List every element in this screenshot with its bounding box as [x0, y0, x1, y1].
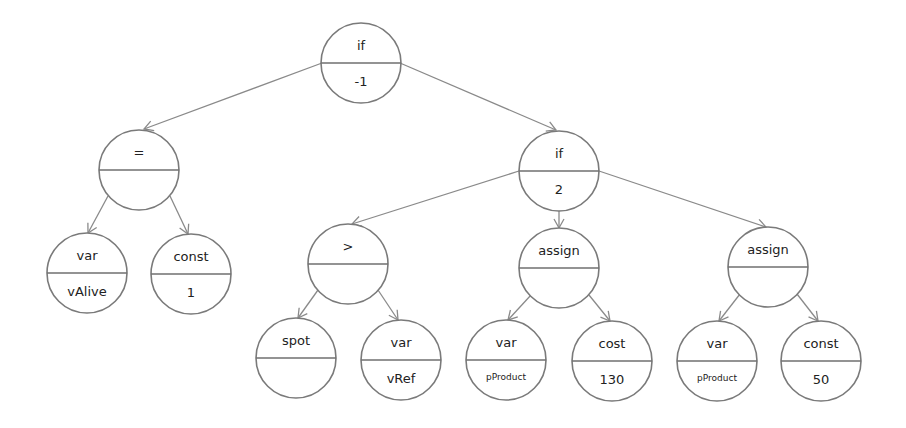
- tree-node-: =: [99, 130, 179, 210]
- edge-n5-n8: [298, 290, 318, 318]
- node-value: 2: [555, 182, 563, 197]
- node-operator: spot: [282, 333, 310, 348]
- node-operator: const: [173, 249, 208, 264]
- node-value: vAlive: [67, 284, 107, 299]
- edge-n1-n4: [170, 196, 189, 234]
- node-value: 50: [813, 372, 830, 387]
- expression-tree-diagram: if-1=if2varvAliveconst1>assignassignspot…: [0, 0, 906, 428]
- node-value: pProduct: [697, 373, 737, 383]
- edge-n0-n2: [400, 63, 556, 131]
- tree-node-assign: assign: [519, 228, 599, 308]
- node-operator: var: [390, 335, 412, 350]
- tree-node-: >: [308, 224, 388, 304]
- tree-node-cost: cost130: [572, 321, 652, 401]
- edge-n6-n11: [589, 295, 610, 321]
- edge-n6-n10: [508, 295, 531, 320]
- node-operator: var: [495, 335, 517, 350]
- edge-n2-n5: [352, 171, 519, 226]
- edge-n2-n6: [554, 211, 564, 228]
- node-value: vRef: [387, 371, 416, 386]
- tree-node-assign: assign: [728, 227, 808, 307]
- node-operator: >: [343, 239, 354, 254]
- tree-node-var: varpProduct: [677, 321, 757, 401]
- edge-n0-n1: [144, 63, 322, 131]
- node-operator: if: [357, 38, 366, 53]
- node-operator: cost: [599, 336, 626, 351]
- tree-node-const: const50: [781, 321, 861, 401]
- tree-node-if: if-1: [321, 23, 401, 103]
- tree-node-var: varvRef: [361, 320, 441, 400]
- edge-n7-n13: [797, 294, 818, 321]
- edge-n7-n12: [719, 294, 740, 321]
- node-value: 1: [187, 285, 195, 300]
- tree-node-var: varvAlive: [47, 233, 127, 313]
- edge-n5-n9: [378, 290, 398, 320]
- node-operator: =: [134, 145, 145, 160]
- tree-node-var: varpProduct: [466, 320, 546, 400]
- node-operator: const: [803, 336, 838, 351]
- node-operator: if: [555, 146, 564, 161]
- node-value: pProduct: [486, 372, 526, 382]
- node-operator: assign: [747, 242, 789, 257]
- tree-node-if: if2: [519, 131, 599, 211]
- node-value: -1: [355, 74, 368, 89]
- tree-node-spot: spot: [256, 318, 336, 398]
- node-operator: var: [76, 248, 98, 263]
- node-value: 130: [600, 372, 625, 387]
- node-operator: var: [706, 336, 728, 351]
- edge-n1-n3: [88, 196, 108, 233]
- edge-n2-n7: [599, 171, 766, 229]
- node-operator: assign: [538, 243, 580, 258]
- tree-node-const: const1: [151, 234, 231, 314]
- tree-nodes: if-1=if2varvAliveconst1>assignassignspot…: [47, 23, 861, 401]
